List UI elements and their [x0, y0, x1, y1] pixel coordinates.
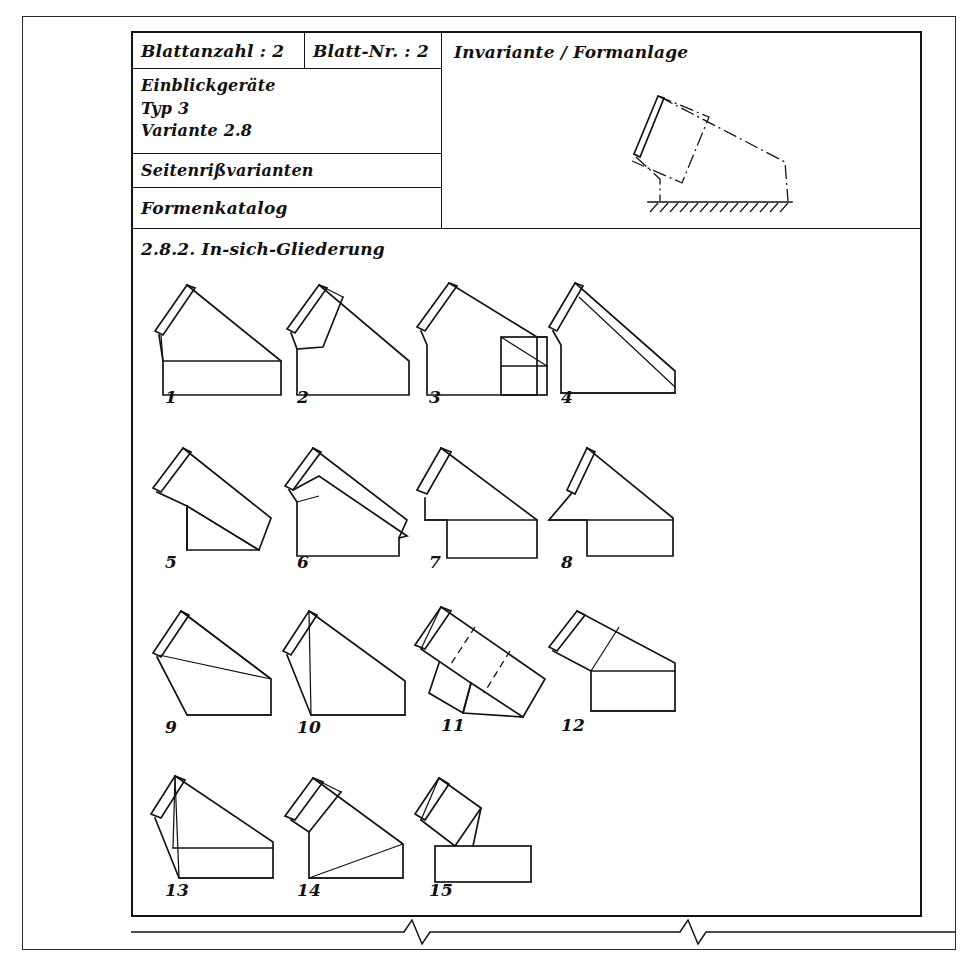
- title-block: Blattanzahl : 2 Blatt-Nr. : 2 Einblickge…: [133, 33, 442, 229]
- drawing-sheet: Blattanzahl : 2 Blatt-Nr. : 2 Einblickge…: [0, 0, 978, 967]
- invariant-panel: Invariante / Formanlage: [442, 33, 920, 229]
- title-block-row-view-kind: Seitenrißvarianten: [133, 154, 442, 188]
- catalog-name-label: Formenkatalog: [133, 198, 296, 218]
- figure-8: 8: [543, 440, 703, 566]
- title-block-row-device: Einblickgeräte Typ 3 Variante 2.8: [133, 69, 442, 154]
- sheet-count-cell: Blattanzahl : 2: [133, 33, 305, 68]
- invariant-schematic: [592, 71, 932, 221]
- bottom-break-line: [0, 918, 978, 958]
- figure-9-label: 9: [165, 717, 177, 737]
- figure-12-label: 12: [561, 715, 585, 735]
- figure-7-label: 7: [429, 552, 441, 572]
- figure-10-label: 10: [297, 717, 321, 737]
- figure-15: 15: [411, 770, 571, 896]
- section-heading: 2.8.2. In-sich-Gliederung: [141, 239, 385, 259]
- device-name: Einblickgeräte: [141, 75, 433, 98]
- invariant-panel-title: Invariante / Formanlage: [454, 42, 688, 62]
- sheet-number-label: Blatt-Nr. : 2: [305, 41, 437, 61]
- figure-1-label: 1: [165, 387, 177, 407]
- figure-6-label: 6: [297, 552, 309, 572]
- figure-14-label: 14: [297, 880, 321, 900]
- figure-grid: 2.8.2. In-sich-Gliederung 1: [133, 231, 920, 915]
- figure-4: 4: [543, 275, 703, 401]
- figure-12: 12: [543, 601, 703, 731]
- device-type: Typ 3: [141, 98, 433, 121]
- figure-15-label: 15: [429, 880, 453, 900]
- title-block-row-catalog: Formenkatalog: [133, 188, 442, 229]
- figure-13-label: 13: [165, 880, 189, 900]
- figure-3-label: 3: [429, 387, 441, 407]
- title-block-row-sheet-info: Blattanzahl : 2 Blatt-Nr. : 2: [133, 33, 442, 69]
- device-variant: Variante 2.8: [141, 120, 433, 143]
- sheet-number-cell: Blatt-Nr. : 2: [305, 33, 441, 68]
- figure-2-label: 2: [297, 387, 309, 407]
- figure-4-label: 4: [561, 387, 573, 407]
- view-kind-label: Seitenrißvarianten: [133, 161, 322, 180]
- figure-5-label: 5: [165, 552, 177, 572]
- figure-8-label: 8: [561, 552, 573, 572]
- figure-11-label: 11: [441, 715, 465, 735]
- sheet-count-label: Blattanzahl : 2: [133, 41, 292, 61]
- content-block: Blattanzahl : 2 Blatt-Nr. : 2 Einblickge…: [131, 31, 922, 917]
